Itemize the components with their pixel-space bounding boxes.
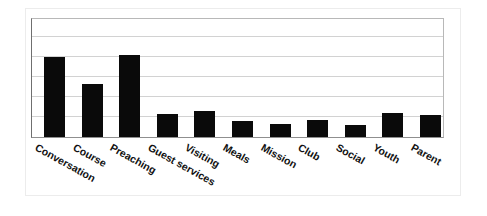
plot-area bbox=[31, 18, 444, 138]
category-label: Mission bbox=[259, 141, 299, 170]
bar bbox=[44, 57, 65, 137]
category-label: Meals bbox=[221, 141, 252, 166]
category-label: Social bbox=[334, 141, 367, 166]
category-label: Parent bbox=[409, 141, 443, 167]
bar bbox=[345, 125, 366, 137]
bar bbox=[382, 113, 403, 137]
bar bbox=[307, 120, 328, 137]
category-axis-labels: ConversationCoursePreachingGuest service… bbox=[31, 139, 444, 199]
bar bbox=[232, 121, 253, 137]
category-label: Youth bbox=[371, 141, 402, 166]
bar bbox=[157, 114, 178, 137]
bar bbox=[194, 111, 215, 137]
bar bbox=[119, 55, 140, 137]
bars-group bbox=[32, 19, 443, 137]
bar bbox=[82, 84, 103, 137]
category-label: Club bbox=[296, 141, 322, 163]
bar bbox=[270, 124, 291, 137]
bar-chart-figure: ConversationCoursePreachingGuest service… bbox=[0, 0, 487, 216]
bar bbox=[420, 115, 441, 137]
